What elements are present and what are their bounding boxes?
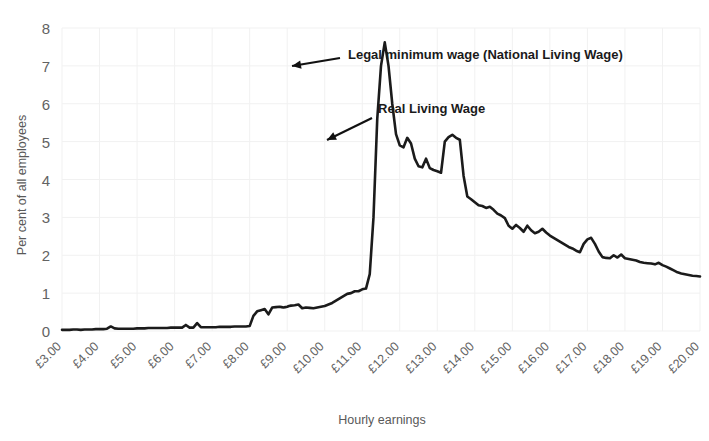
y-axis-tick-label: 5 [42, 134, 50, 151]
x-axis-tick-label: £14.00 [440, 339, 477, 376]
x-axis-tick-label: £4.00 [70, 339, 102, 371]
y-axis-ticks: 012345678 [42, 20, 50, 340]
x-axis-tick-label: £6.00 [145, 339, 177, 371]
x-axis-tick-label: £3.00 [32, 339, 64, 371]
y-axis-tick-label: 7 [42, 58, 50, 75]
x-axis-tick-label: £5.00 [107, 339, 139, 371]
x-axis-tick-label: £18.00 [590, 339, 627, 376]
y-axis-tick-label: 0 [42, 323, 50, 340]
x-axis-tick-label: £11.00 [328, 339, 364, 375]
x-axis-tick-label: £7.00 [182, 339, 214, 371]
x-axis-tick-label: £12.00 [365, 339, 402, 376]
x-axis-title: Hourly earnings [338, 413, 426, 427]
annotation-arrowhead-legal-minimum-wage [292, 60, 302, 68]
x-axis-tick-label: £10.00 [290, 339, 327, 376]
x-axis-tick-label: £17.00 [553, 339, 590, 376]
y-axis-title: Per cent of all employees [15, 115, 29, 255]
annotation-label-legal-minimum-wage: Legal minimum wage (National Living Wage… [348, 47, 623, 62]
y-axis-tick-label: 2 [42, 247, 50, 264]
x-axis-ticks: £3.00£4.00£5.00£6.00£7.00£8.00£9.00£10.0… [32, 339, 702, 376]
y-axis-tick-label: 4 [42, 172, 50, 189]
x-axis-tick-label: £16.00 [515, 339, 552, 376]
chart-annotations: Legal minimum wage (National Living Wage… [292, 47, 623, 140]
x-axis-tick-label: £8.00 [220, 339, 252, 371]
y-axis-tick-label: 1 [42, 285, 50, 302]
annotation-label-real-living-wage: Real Living Wage [378, 101, 485, 116]
y-axis-tick-label: 8 [42, 20, 50, 37]
x-axis-tick-label: £20.00 [665, 339, 702, 376]
y-axis-tick-label: 3 [42, 209, 50, 226]
x-axis-tick-label: £15.00 [478, 339, 515, 376]
x-axis-tick-label: £9.00 [257, 339, 289, 371]
series-line-employees [62, 42, 700, 329]
x-axis-tick-label: £19.00 [628, 339, 665, 376]
data-series-line [62, 42, 700, 329]
wage-distribution-chart: 012345678 £3.00£4.00£5.00£6.00£7.00£8.00… [0, 0, 709, 441]
chart-canvas: 012345678 £3.00£4.00£5.00£6.00£7.00£8.00… [0, 0, 709, 441]
x-axis-tick-label: £13.00 [402, 339, 439, 376]
y-axis-tick-label: 6 [42, 96, 50, 113]
